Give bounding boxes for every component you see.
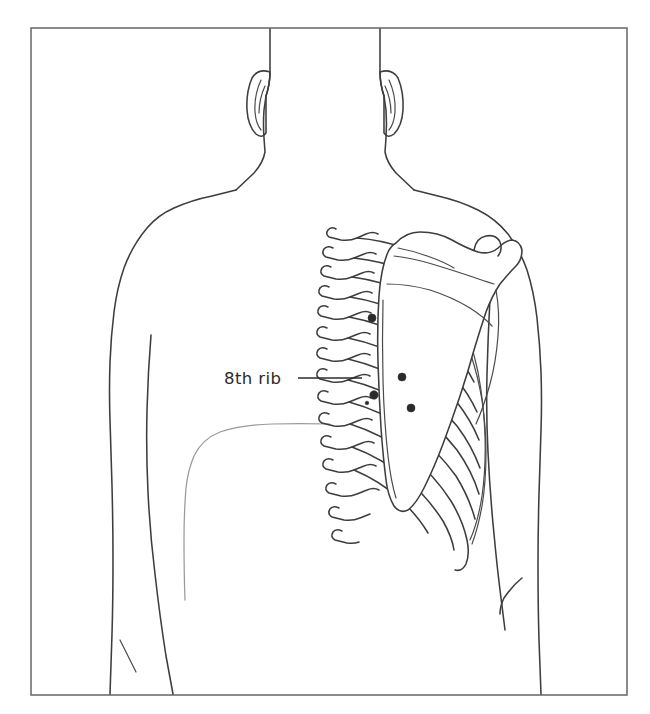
body-outline-group (110, 29, 542, 694)
vertebra-t7 (317, 348, 370, 362)
vertebra-t3 (321, 266, 374, 280)
vertebra-t11 (321, 436, 374, 450)
left-scapula-inferior-contour (184, 424, 330, 601)
rib-marker-dot-small (365, 401, 369, 405)
eighth-rib-label-group: 8th rib (224, 369, 362, 388)
right-arm-elbow-crease (500, 578, 522, 614)
rib-marker-dot (368, 314, 376, 322)
vertebra-t8 (317, 369, 370, 383)
vertebra-t12 (323, 459, 376, 473)
vertebra-t1 (327, 228, 378, 241)
rib-marker-dot (398, 373, 406, 381)
vertebra-t9 (318, 391, 371, 405)
vertebral-column-group (317, 228, 379, 544)
vertebra-t4 (319, 286, 372, 300)
rib-marker-dot (407, 404, 415, 412)
scapula-outline (378, 232, 522, 511)
vertebra-t2 (323, 247, 376, 261)
rib-marker-dot (370, 391, 378, 399)
right-arm-inner-contour (487, 298, 505, 630)
left-shoulder-trunk-outline (110, 190, 237, 694)
vertebra-t6 (317, 327, 370, 341)
vertebra-l1 (326, 483, 379, 497)
vertebra-t10 (319, 413, 372, 427)
eighth-rib-label: 8th rib (224, 369, 281, 388)
scapula-group (378, 232, 522, 511)
left-flank-inner-line (147, 335, 173, 694)
left-arm-lower-crease (120, 640, 136, 672)
anatomy-illustration-canvas: 8th rib (0, 0, 650, 714)
head-neck-left-outline (236, 29, 270, 190)
head-neck-right-outline (380, 29, 414, 190)
vertebra-l3 (332, 530, 359, 544)
vertebra-l2 (329, 507, 370, 521)
anatomy-figure: 8th rib (0, 0, 650, 714)
vertebra-t5 (318, 306, 371, 320)
